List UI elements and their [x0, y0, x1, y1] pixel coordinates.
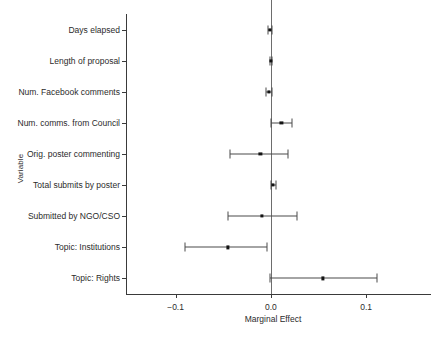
- y-axis-tick: [122, 154, 126, 155]
- y-axis-title: Variable: [16, 0, 30, 337]
- y-axis-tick-label: Length of proposal: [50, 56, 120, 66]
- confidence-interval-cap: [185, 243, 186, 252]
- y-axis-tick-label: Submitted by NGO/CSO: [28, 211, 120, 221]
- y-axis-tick: [122, 92, 126, 93]
- data-point: [268, 28, 271, 31]
- x-axis-title: Marginal Effect: [110, 314, 436, 324]
- data-point: [267, 90, 270, 93]
- data-point: [259, 152, 262, 155]
- y-axis-tick: [122, 247, 126, 248]
- x-axis-tick-label: 0.0: [265, 302, 277, 312]
- plot-area: Days elapsedLength of proposalNum. Faceb…: [126, 14, 431, 294]
- data-point: [280, 121, 283, 124]
- data-point: [322, 277, 325, 280]
- data-point: [271, 184, 274, 187]
- confidence-interval-cap: [288, 150, 289, 159]
- data-point: [261, 215, 264, 218]
- y-axis-tick: [122, 216, 126, 217]
- y-axis-tick: [122, 61, 126, 62]
- confidence-interval-cap: [376, 274, 377, 283]
- confidence-interval-cap: [227, 212, 228, 221]
- y-axis-tick: [122, 185, 126, 186]
- y-axis-tick-label: Num. Facebook comments: [18, 87, 120, 97]
- x-axis-line: [126, 294, 431, 295]
- marginal-effects-plot: Variable Days elapsedLength of proposalN…: [0, 0, 436, 337]
- x-axis-tick-label: 0.1: [360, 302, 372, 312]
- confidence-interval-cap: [270, 118, 271, 127]
- data-point: [269, 59, 272, 62]
- y-axis-tick-label: Topic: Institutions: [55, 242, 120, 252]
- confidence-interval-cap: [229, 150, 230, 159]
- x-axis-tick: [271, 294, 272, 298]
- confidence-interval-cap: [269, 274, 270, 283]
- confidence-interval-cap: [271, 87, 272, 96]
- y-axis-tick: [122, 30, 126, 31]
- confidence-interval-cap: [275, 181, 276, 190]
- confidence-interval-cap: [296, 212, 297, 221]
- y-axis-tick-label: Days elapsed: [68, 25, 120, 35]
- y-axis-tick-label: Num. comms. from Council: [18, 118, 121, 128]
- x-axis-tick: [176, 294, 177, 298]
- data-point: [226, 246, 229, 249]
- y-axis-tick-label: Total submits by poster: [33, 180, 120, 190]
- y-axis-line: [126, 14, 127, 294]
- y-axis-tick-label: Topic: Rights: [71, 273, 120, 283]
- y-axis-tick: [122, 123, 126, 124]
- y-axis-tick-label: Orig. poster commenting: [27, 149, 120, 159]
- confidence-interval-cap: [291, 118, 292, 127]
- x-axis-tick: [366, 294, 367, 298]
- x-axis-tick-label: −0.1: [167, 302, 184, 312]
- confidence-interval-cap: [267, 243, 268, 252]
- y-axis-tick: [122, 278, 126, 279]
- zero-reference-line: [271, 0, 272, 294]
